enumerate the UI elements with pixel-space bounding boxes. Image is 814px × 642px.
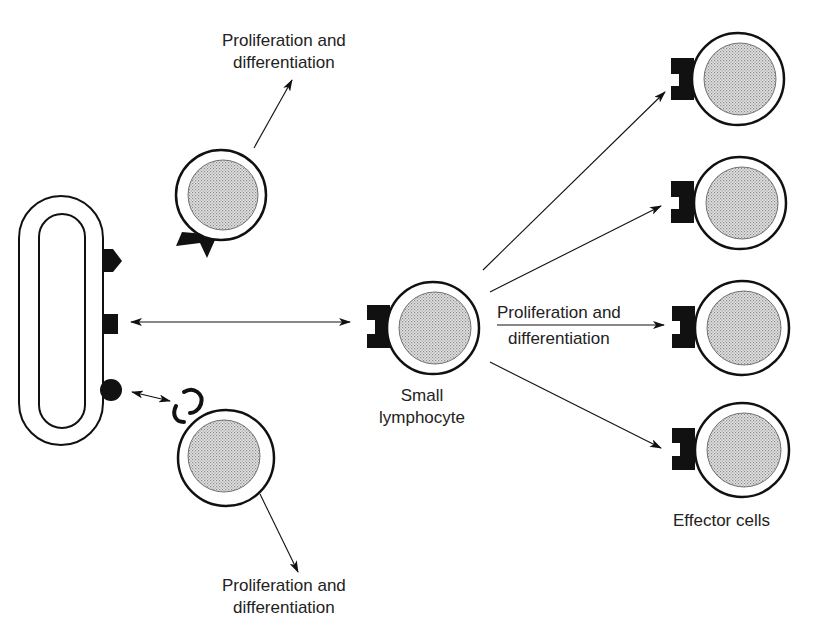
antigen-circle-icon [100, 379, 122, 401]
label-middle-proliferation: Proliferation and differentiation [497, 300, 621, 352]
lymphocyte-top [176, 150, 266, 258]
antigen-square-icon [102, 314, 118, 334]
label-line-2: differentiation [222, 52, 346, 74]
cell-nucleus [707, 291, 781, 365]
cell-nucleus [704, 43, 776, 115]
arrow-to-effector-1 [483, 92, 665, 270]
lymphocyte-activation-diagram [0, 0, 814, 642]
arrow-to-effector-4 [490, 362, 661, 448]
double-arrow-pathogen-bottom-lymphocyte [132, 392, 170, 401]
notched-receptor-icon [671, 181, 694, 223]
effector-cell-1 [671, 33, 784, 125]
notched-receptor-icon [671, 58, 694, 100]
notched-receptor-icon [672, 428, 695, 470]
antigen-pentagon-icon [103, 249, 122, 272]
label-effector-cells: Effector cells [673, 510, 770, 532]
effector-cell-4 [672, 403, 789, 497]
label-line-1: Small [379, 385, 465, 407]
effector-cell-3 [672, 281, 789, 375]
arrow-bottom-lymphocyte-proliferation [260, 494, 298, 572]
label-line-1: Proliferation and [497, 300, 621, 326]
pathogen-inner-wall [39, 214, 85, 428]
label-line-2: lymphocyte [379, 407, 465, 429]
label-line-2: differentiation [222, 597, 346, 619]
pathogen [19, 196, 122, 445]
label-top-proliferation: Proliferation and differentiation [222, 30, 346, 74]
small-lymphocyte [367, 282, 479, 374]
arrow-top-lymphocyte-proliferation [254, 80, 292, 148]
notched-receptor-icon [672, 306, 695, 348]
effector-cell-2 [671, 157, 786, 249]
label-line-1: Proliferation and [222, 30, 346, 52]
label-small-lymphocyte: Small lymphocyte [379, 385, 465, 429]
label-line-2: differentiation [497, 326, 621, 352]
cell-nucleus [188, 420, 260, 492]
arrow-to-effector-2 [490, 206, 661, 292]
label-line-1: Proliferation and [222, 575, 346, 597]
lymphocyte-bottom [174, 390, 274, 506]
cell-nucleus [706, 167, 778, 239]
label-bottom-proliferation: Proliferation and differentiation [222, 575, 346, 619]
hook-receptor-icon [174, 390, 201, 422]
cell-nucleus [399, 292, 471, 364]
cell-nucleus [188, 160, 258, 230]
cell-nucleus [707, 413, 781, 487]
